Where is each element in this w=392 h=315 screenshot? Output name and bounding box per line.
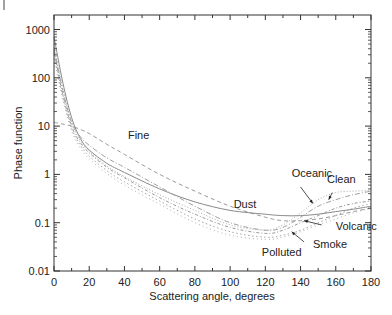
x-tick-label: 0 [51, 276, 57, 288]
series-clean [54, 49, 371, 231]
annotation-polluted: Polluted [262, 246, 302, 258]
y-tick-label: 10 [38, 120, 50, 132]
x-tick-label: 100 [221, 276, 239, 288]
x-tick-label: 20 [83, 276, 95, 288]
x-tick-label: 120 [256, 276, 274, 288]
x-axis-label: Scattering angle, degrees [149, 290, 275, 302]
y-axis-label: Phase function [12, 107, 24, 180]
series-layer [54, 37, 371, 239]
y-tick-label: 0.1 [35, 217, 50, 229]
annotation-clean: Clean [327, 173, 356, 185]
y-tick-label: 1 [44, 168, 50, 180]
series-polluted [54, 59, 371, 240]
series-smoke [54, 55, 371, 238]
y-tick-label: 100 [32, 72, 50, 84]
x-tick-label: 40 [118, 276, 130, 288]
y-tick-label: 0.01 [29, 265, 50, 277]
x-tick-label: 60 [154, 276, 166, 288]
x-tick-label: 80 [189, 276, 201, 288]
annotation-smoke: Smoke [313, 238, 347, 250]
phase-function-chart: 020406080100120140160180 0.010.111010010… [0, 0, 392, 315]
y-tick-label: 1000 [26, 24, 50, 36]
x-tick-label: 140 [291, 276, 309, 288]
series-oceanic [54, 44, 371, 230]
x-tick-label: 180 [362, 276, 380, 288]
annotation-layer: FineOceanicCleanDustVolcanicSmokePollute… [128, 129, 377, 259]
annotation-dust: Dust [234, 198, 257, 210]
series-dust [54, 37, 371, 216]
x-tick-label: 160 [327, 276, 345, 288]
plot-frame [54, 15, 371, 271]
annotation-fine: Fine [128, 129, 149, 141]
annotation-volcanic: Volcanic [336, 220, 377, 232]
